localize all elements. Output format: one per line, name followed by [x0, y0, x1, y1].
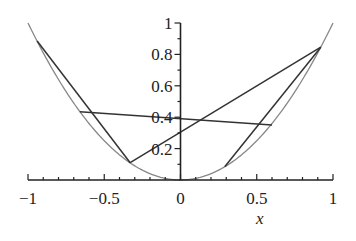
x-tick-label: 0.5 — [246, 189, 267, 208]
y-tick-label: 0.2 — [151, 140, 172, 159]
chart-axes — [28, 23, 333, 180]
chart-labels: −1−0.500.510.20.40.60.81x — [19, 14, 337, 228]
line-segment-3 — [225, 47, 321, 167]
chart-plot: −1−0.500.510.20.40.60.81x — [0, 0, 356, 241]
x-tick-label: 0 — [176, 189, 185, 208]
x-tick-label: 1 — [329, 189, 338, 208]
x-tick-label: −1 — [19, 189, 37, 208]
y-tick-label: 0.8 — [151, 45, 172, 64]
x-axis-title: x — [255, 209, 264, 228]
y-tick-label: 0.6 — [151, 77, 172, 96]
y-tick-label: 1 — [164, 14, 173, 33]
line-segment-1 — [37, 41, 130, 163]
x-tick-label: −0.5 — [89, 189, 120, 208]
line-segment-4 — [80, 112, 272, 125]
y-tick-label: 0.4 — [151, 108, 173, 127]
